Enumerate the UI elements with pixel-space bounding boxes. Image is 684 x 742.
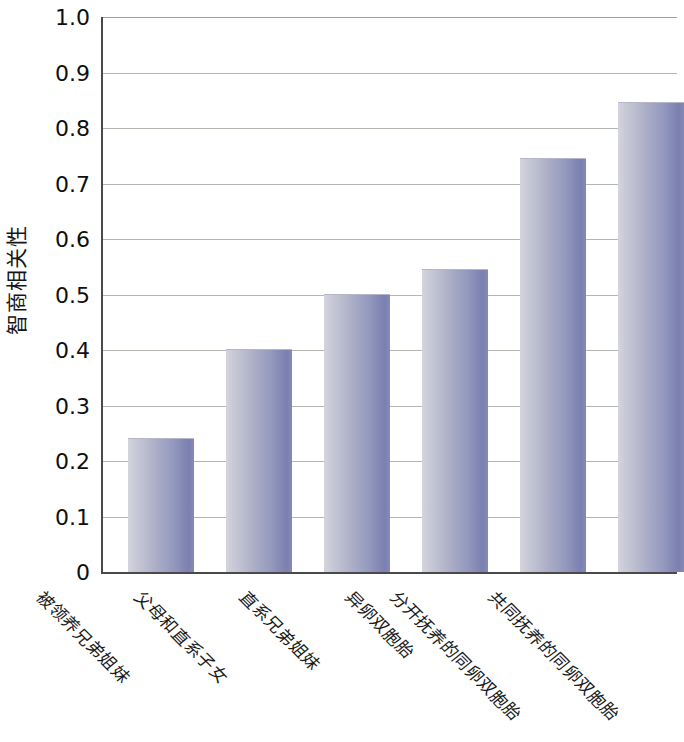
x-tick-label-adopted-siblings: 被领养兄弟姐妹: [32, 584, 136, 688]
y-axis-line: [101, 17, 103, 572]
bar-adopted-siblings: [128, 438, 194, 572]
x-axis-tick-labels: 被领养兄弟姐妹 父母和直系子女 直系兄弟姐妹 异卵双胞胎 分开抚养的同卵双胞胎 …: [0, 572, 677, 742]
plot-area: [101, 17, 677, 572]
y-tick-label: 0.6: [55, 227, 90, 252]
x-tick-label-parent-child: 父母和直系子女: [130, 584, 234, 688]
y-axis-title: 智商相关性: [0, 180, 30, 380]
y-tick-label: 0.5: [55, 282, 90, 307]
y-tick-label: 0.8: [55, 116, 90, 141]
y-tick-label: 0.4: [55, 338, 90, 363]
y-tick-label: 0.2: [55, 449, 90, 474]
bar-parent-child: [226, 349, 292, 572]
y-axis-title-text: 智商相关性: [0, 225, 30, 335]
y-tick-label: 1.0: [55, 5, 90, 30]
bar-identical-twins-together: [618, 102, 684, 572]
bar-identical-twins-apart: [520, 158, 586, 573]
y-axis-tick-labels: 1.0 0.9 0.8 0.7 0.6 0.5 0.4 0.3 0.2 0.1 …: [28, 0, 96, 600]
y-tick-label: 0.9: [55, 60, 90, 85]
y-tick-label: 0.3: [55, 393, 90, 418]
x-tick-label-biological-siblings: 直系兄弟姐妹: [235, 584, 327, 676]
y-tick-label: 0.7: [55, 171, 90, 196]
y-tick-label: 0.1: [55, 504, 90, 529]
bar-biological-siblings: [324, 294, 390, 573]
bar-series: [101, 17, 677, 572]
bar-fraternal-twins: [422, 269, 488, 573]
